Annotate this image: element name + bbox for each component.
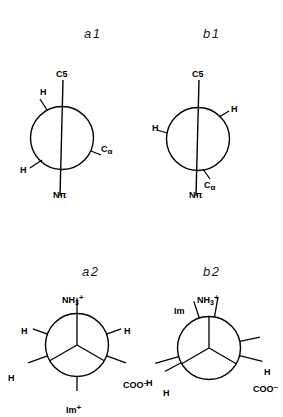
h-upper-right-label-b2: H bbox=[264, 368, 271, 377]
bond-diagram-b2 bbox=[0, 0, 283, 417]
im-label-b2: Im bbox=[174, 307, 185, 316]
front-bond-h-lower-left-b2 bbox=[165, 363, 181, 372]
panel-b2: b2NH3+ImHCOO–HH bbox=[0, 0, 283, 417]
front-bond-coo-b2 bbox=[240, 356, 263, 362]
h-lower-left-label-b2: H bbox=[163, 389, 170, 398]
h-left-label-b2: H bbox=[146, 379, 153, 388]
back-bond-lower-right-b2 bbox=[209, 348, 236, 364]
coo-label-b2: COO– bbox=[253, 383, 278, 394]
front-bond-h-upper-right-b2 bbox=[240, 337, 260, 341]
front-bond-h-left-b2 bbox=[155, 357, 179, 364]
newman-projection-figure: a1C5NπHCαHb1C5NπHHCαa2NH3+HHHCOO–Im+b2NH… bbox=[0, 0, 283, 417]
nh3-label-b2: NH3+ bbox=[197, 294, 219, 306]
back-bond-lower-left-b2 bbox=[182, 348, 209, 364]
